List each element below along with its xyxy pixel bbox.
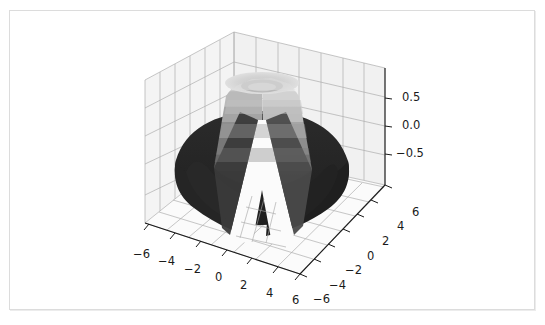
x-tick-label: 4 [266, 288, 273, 300]
y-tick-label: −2 [345, 265, 362, 277]
z-tick-label: 0.0 [402, 120, 420, 132]
y-tick-label: 4 [397, 221, 404, 233]
z-tick-label: 0.5 [402, 92, 420, 104]
y-tick-label: −6 [313, 294, 330, 306]
y-tick-label: 0 [367, 251, 374, 263]
x-tick-label: 6 [292, 295, 299, 307]
x-tick-label: −6 [133, 249, 150, 261]
surface-plot-3d [0, 0, 545, 325]
y-tick-label: −4 [329, 280, 346, 292]
y-tick-label: 2 [382, 236, 389, 248]
y-tick-label: 6 [412, 207, 419, 219]
screenshot-root: −6 −4 −2 0 2 4 6 −6 −4 −2 0 2 4 6 0.5 0.… [0, 0, 545, 325]
x-tick-label: 2 [240, 280, 247, 292]
x-tick-label: 0 [215, 272, 222, 284]
z-tick-label: −0.5 [396, 148, 424, 160]
x-tick-label: −4 [158, 256, 175, 268]
x-tick-label: −2 [184, 264, 201, 276]
